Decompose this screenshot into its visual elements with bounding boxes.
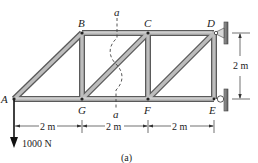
dimension-right-label: 2 m: [233, 60, 249, 71]
truss-members: [14, 32, 214, 99]
figure-caption: (a): [121, 152, 132, 163]
section-label-bottom: a: [113, 108, 119, 120]
truss-diagram: a a A B C D E F G 2 m 2 m: [0, 0, 258, 163]
joint-label-a: A: [0, 93, 8, 105]
joint-label-c: C: [144, 17, 152, 29]
load-arrow-icon: [10, 100, 18, 148]
joint-label-b: B: [78, 17, 85, 29]
joint-label-d: D: [206, 17, 215, 29]
roller-support-icon: [217, 96, 223, 102]
joint-label-e: E: [208, 104, 216, 116]
joint-label-g: G: [78, 104, 86, 116]
joint-label-f: F: [143, 104, 151, 116]
section-label-top: a: [114, 6, 120, 18]
load-label: 1000 N: [22, 138, 52, 149]
dimension-bottom-2: 2 m: [106, 121, 122, 132]
dimension-bottom-1: 2 m: [40, 121, 56, 132]
dimension-bottom-3: 2 m: [172, 121, 188, 132]
